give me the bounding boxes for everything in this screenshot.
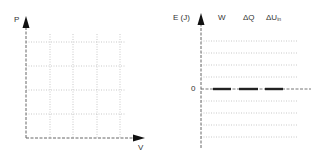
column-label-dq: ΔQ bbox=[243, 14, 255, 22]
v-axis-label: V bbox=[138, 144, 143, 152]
du-label-main: ΔU bbox=[266, 13, 277, 22]
p-axis-label: P bbox=[14, 16, 19, 24]
column-label-du-in: ΔUin bbox=[266, 14, 281, 22]
pv-grid bbox=[26, 34, 125, 138]
column-label-w: W bbox=[218, 14, 226, 22]
v-axis-arrow-icon bbox=[133, 135, 145, 142]
du-label-subscript: in bbox=[277, 16, 281, 22]
bar-du-in bbox=[265, 88, 283, 90]
bar-dq bbox=[239, 88, 258, 90]
energy-axis-label: E (J) bbox=[173, 14, 190, 22]
p-axis-arrow-icon bbox=[23, 16, 30, 28]
energy-axis-arrow-icon bbox=[198, 13, 205, 25]
diagram-canvas bbox=[0, 0, 323, 158]
pv-axes bbox=[26, 26, 135, 138]
zero-label: 0 bbox=[191, 85, 195, 93]
bar-w bbox=[213, 88, 231, 90]
